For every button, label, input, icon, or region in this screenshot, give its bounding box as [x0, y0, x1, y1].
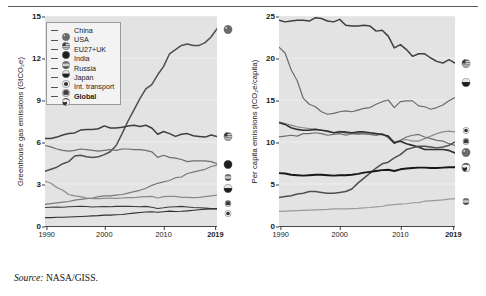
x-tick-label: 2019: [207, 230, 223, 239]
series-line-india: [45, 165, 217, 204]
legend-item-russia[interactable]: Russia: [51, 64, 114, 73]
y-axis-label-left-text: Greenhouse gas emissions (GtCO₂e): [17, 56, 26, 185]
end-marker-global: [462, 158, 471, 176]
legend-item-eu27-uk[interactable]: EU27+UK: [51, 45, 114, 54]
y-axis-label-right: Per capita emissions (tCO₂e/capita): [248, 16, 262, 226]
y-ticks-right: 0510152025: [262, 16, 279, 226]
legend-item-label: China: [74, 26, 93, 35]
y-tick-label: 3: [37, 180, 41, 189]
x-tick-mark: [104, 226, 105, 230]
japan-flag-marker: [62, 74, 70, 82]
x-tick-label: 2000: [331, 230, 347, 239]
figure-root: Greenhouse gas emissions (GtCO₂e) 036912…: [0, 0, 486, 296]
series-line-global: [279, 167, 455, 175]
legend-line-swatch: [51, 96, 58, 97]
legend-line-swatch: [51, 49, 58, 50]
eu-flag-marker: [62, 45, 70, 53]
end-marker-japan: [225, 203, 232, 221]
y-tick-label: 12: [32, 54, 41, 63]
x-tick-label: 1990: [38, 230, 54, 239]
legend-item-label: USA: [74, 35, 89, 44]
russia-flag-marker: [62, 64, 70, 72]
series-line-usa: [279, 18, 455, 63]
legend-item-label: India: [74, 54, 90, 63]
x-tick-label: 1990: [272, 230, 288, 239]
end-markers-left: [219, 16, 239, 226]
legend-item-label: Int. transport: [74, 82, 114, 91]
series-line-usa: [45, 125, 217, 138]
x-tick-mark: [215, 226, 216, 230]
x-tick-label: 2010: [392, 230, 408, 239]
x-tick-label: 2019: [445, 230, 461, 239]
source-prefix: Source:: [14, 272, 43, 283]
usa-flag-marker: [62, 36, 70, 44]
y-tick-label: 25: [266, 12, 275, 21]
end-marker-china: [224, 20, 233, 38]
x-ticks-left: 1990200020102019: [45, 226, 217, 240]
x-tick-mark: [164, 226, 165, 230]
source-note: Source: NASA/GISS.: [14, 272, 98, 283]
x-tick-mark: [340, 226, 341, 230]
x-ticks-right: 1990200020102019: [279, 226, 455, 240]
end-markers-right: [457, 16, 477, 226]
x-tick-mark: [47, 226, 48, 230]
y-tick-label: 9: [37, 96, 41, 105]
y-tick-label: 20: [266, 54, 275, 63]
x-tick-mark: [453, 226, 454, 230]
legend-item-label: Russia: [74, 64, 96, 73]
series-line-japan: [279, 133, 455, 146]
legend-line-swatch: [51, 58, 58, 59]
header-rule: [8, 6, 478, 7]
end-marker-russia: [462, 73, 471, 91]
end-marker-usa: [462, 54, 471, 72]
x-tick-label: 2010: [155, 230, 171, 239]
india-flag-marker: [62, 55, 70, 63]
legend-item-china[interactable]: China: [51, 26, 114, 35]
chart-per-capita-emissions: Per capita emissions (tCO₂e/capita) 0510…: [248, 16, 480, 252]
end-marker-india: [463, 191, 470, 209]
legend-item-label: Global: [74, 92, 96, 101]
plot-svg-right: [279, 16, 455, 226]
x-tick-mark: [400, 226, 401, 230]
y-tick-label: 15: [266, 96, 275, 105]
legend-item-global[interactable]: Global: [51, 92, 114, 101]
x-tick-mark: [281, 226, 282, 230]
legend-line-swatch: [51, 40, 58, 41]
legend-item-usa[interactable]: USA: [51, 35, 114, 44]
x-tick-label: 2000: [96, 230, 112, 239]
global-globe-marker: [62, 92, 70, 100]
y-tick-label: 5: [271, 180, 275, 189]
y-ticks-left: 03691215: [28, 16, 45, 226]
y-tick-label: 10: [266, 138, 275, 147]
legend-line-swatch: [51, 30, 58, 31]
series-line-eu27-uk: [45, 146, 217, 164]
y-tick-label: 6: [37, 138, 41, 147]
legend-line-swatch: [51, 68, 58, 69]
legend-line-swatch: [51, 77, 58, 78]
chart-legend: China USA EU27+UK India: [46, 22, 121, 105]
china-flag-marker: [62, 27, 70, 35]
int-transport-marker: [62, 83, 70, 91]
legend-item-label: EU27+UK: [74, 45, 106, 54]
series-line-japan: [45, 206, 217, 209]
source-text: NASA/GISS.: [46, 272, 98, 283]
y-axis-label-left: Greenhouse gas emissions (GtCO₂e): [14, 16, 28, 226]
series-line-india: [279, 199, 455, 212]
y-axis-label-right-text: Per capita emissions (tCO₂e/capita): [251, 59, 260, 183]
end-marker-usa: [224, 127, 233, 145]
y-tick-label: 15: [32, 12, 41, 21]
chart-ghg-emissions: Greenhouse gas emissions (GtCO₂e) 036912…: [14, 16, 242, 252]
series-line-int-transport: [45, 209, 217, 218]
legend-item-label: Japan: [74, 73, 94, 82]
legend-item-india[interactable]: India: [51, 54, 114, 63]
legend-item-japan[interactable]: Japan: [51, 73, 114, 82]
legend-item-int-transport[interactable]: Int. transport: [51, 82, 114, 91]
plot-area-right: [279, 16, 455, 226]
legend-line-swatch: [51, 87, 58, 88]
